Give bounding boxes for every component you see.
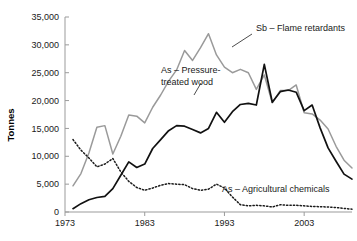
annotation-as-pressure-treated-wood-line2: treated wood — [161, 77, 213, 87]
y-tick-label: 35,000 — [31, 12, 59, 22]
y-tick-label: 15,000 — [31, 124, 59, 134]
chart-background — [0, 0, 357, 241]
y-tick-label: 20,000 — [31, 96, 59, 106]
y-tick-label: 10,000 — [31, 151, 59, 161]
x-tick-label: 1983 — [135, 218, 155, 228]
x-tick-label: 1993 — [214, 218, 234, 228]
chart-container: 05,00010,00015,00020,00025,00030,00035,0… — [0, 0, 357, 241]
y-axis-title: Tonnes — [5, 108, 16, 141]
x-tick-label: 2003 — [294, 218, 314, 228]
y-tick-label: 25,000 — [31, 68, 59, 78]
annotation-as-agricultural-chemicals: As – Agricultural chemicals — [222, 184, 330, 194]
annotation-as-pressure-treated-wood-line1: As – Pressure- — [161, 65, 221, 75]
annotation-sb-flame-retardants: Sb – Flame retardants — [256, 23, 346, 33]
x-tick-label: 1973 — [55, 218, 75, 228]
line-chart: 05,00010,00015,00020,00025,00030,00035,0… — [0, 0, 357, 241]
y-tick-label: 30,000 — [31, 40, 59, 50]
y-tick-label: 0 — [54, 207, 59, 217]
y-tick-label: 5,000 — [36, 179, 59, 189]
